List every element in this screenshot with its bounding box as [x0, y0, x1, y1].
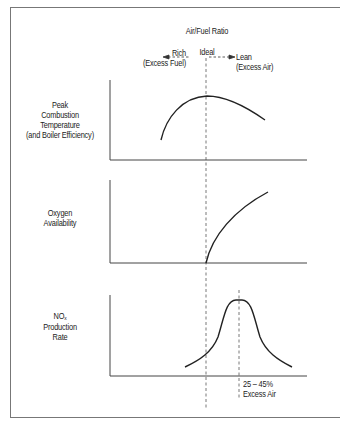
panel2-axes	[110, 180, 307, 263]
oxygen-availability-curve	[206, 192, 268, 263]
nox-production-curve	[185, 300, 292, 367]
panel1-axes	[110, 80, 307, 160]
combustion-temperature-curve	[161, 96, 265, 140]
panel3-axes	[110, 295, 307, 376]
rich-arrow-icon	[163, 55, 190, 59]
lean-arrow-icon	[209, 55, 235, 59]
